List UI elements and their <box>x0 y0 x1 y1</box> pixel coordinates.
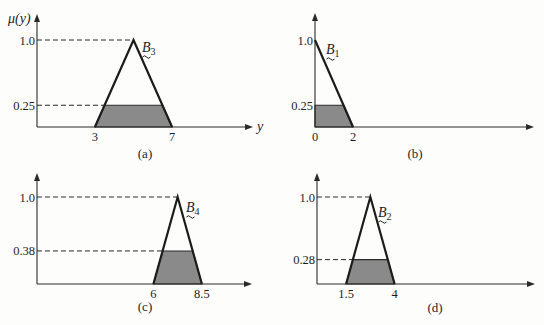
x-axis-arrow-icon <box>244 281 252 287</box>
x-tick-label: 4 <box>391 287 398 301</box>
svg-text:B1: B1 <box>326 42 340 59</box>
svg-text:B2: B2 <box>378 205 392 222</box>
clipped-region-shade <box>346 260 395 284</box>
y-tick-label: 1.0 <box>299 191 315 205</box>
x-tick-label: 0 <box>312 130 318 144</box>
tilde-icon <box>187 216 195 219</box>
panel-caption: (c) <box>138 299 152 314</box>
y-axis-arrow-icon <box>312 13 318 21</box>
y-tick-label: 0.38 <box>13 244 35 258</box>
y-tick-label: 0.25 <box>13 99 35 113</box>
x-tick-label: 3 <box>92 130 98 144</box>
y-tick-label: 0.25 <box>291 99 313 113</box>
panel-caption: (a) <box>138 146 152 161</box>
panel-caption: (b) <box>407 146 422 161</box>
clipped-region-shade <box>95 105 172 127</box>
tilde-icon <box>327 58 335 61</box>
x-tick-label: 7 <box>169 130 175 144</box>
y-tick-label: 1.0 <box>297 34 313 48</box>
x-axis-arrow-icon <box>526 124 534 130</box>
fuzzy-set-label: B4 <box>186 200 200 218</box>
y-axis-arrow-icon <box>34 173 40 181</box>
panel-d: 1.00.281.54B2(d) <box>293 173 535 315</box>
panel-b: 1.00.2502B1(b) <box>291 13 534 161</box>
panel-a: 1.00.2537B3μ(y)y(a) <box>7 11 264 161</box>
figure-canvas: 1.00.2537B3μ(y)y(a)1.00.2502B1(b)1.00.38… <box>0 0 544 325</box>
y-tick-label: 1.0 <box>19 191 35 205</box>
svg-text:B3: B3 <box>142 40 156 57</box>
fuzzy-set-label: B3 <box>142 40 156 58</box>
y-axis-arrow-icon <box>314 173 320 181</box>
x-axis-arrow-icon <box>527 281 535 287</box>
x-tick-label: 8.5 <box>194 287 210 301</box>
tilde-icon <box>379 221 387 224</box>
y-tick-label: 0.28 <box>293 253 315 267</box>
fuzzy-set-label: B1 <box>326 42 340 60</box>
x-axis-arrow-icon <box>245 124 253 130</box>
y-axis-label: μ(y) <box>7 11 31 27</box>
y-tick-label: 1.0 <box>19 34 35 48</box>
panel-c: 1.00.3868.5B4(c) <box>13 173 252 314</box>
fuzzy-clipped-membership-figure: 1.00.2537B3μ(y)y(a)1.00.2502B1(b)1.00.38… <box>0 0 544 325</box>
x-tick-label: 2 <box>350 130 356 144</box>
fuzzy-set-label: B2 <box>378 205 392 223</box>
x-axis-label: y <box>255 119 264 134</box>
panel-caption: (d) <box>427 300 442 315</box>
x-tick-label: 1.5 <box>338 287 354 301</box>
svg-text:B4: B4 <box>186 200 200 217</box>
tilde-icon <box>143 56 151 59</box>
y-axis-arrow-icon <box>34 14 40 22</box>
